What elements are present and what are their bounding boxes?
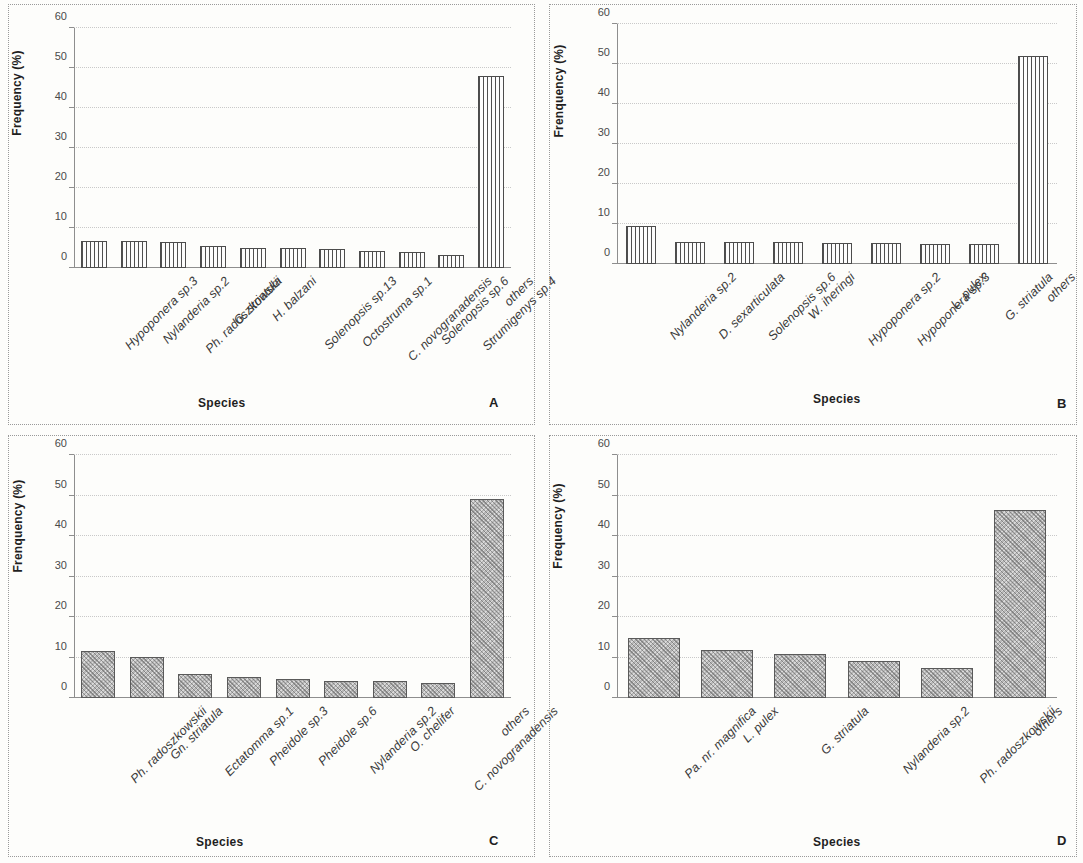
- bar-slot: [74, 455, 123, 698]
- chart-panel-a: Frequency (%) 0102030405060Hypoponera sp…: [0, 0, 541, 431]
- bar-slot: [617, 455, 690, 698]
- bar-slot: [273, 28, 313, 268]
- y-tick-label: 40: [598, 86, 610, 98]
- bar: [822, 243, 852, 264]
- bar-slot: [153, 28, 193, 268]
- y-tick-label: 10: [55, 640, 67, 652]
- y-tick-label: 20: [598, 166, 610, 178]
- bar: [920, 244, 950, 264]
- y-tick-label: 60: [55, 10, 67, 22]
- y-tick-label: 20: [55, 170, 67, 182]
- panel-a-y-axis-title: Frequency (%): [10, 50, 24, 135]
- bar-slot: [193, 28, 233, 268]
- y-tick-label: 50: [55, 478, 67, 490]
- bar: [848, 661, 900, 698]
- bar-slot: [114, 28, 154, 268]
- bar: [319, 249, 345, 268]
- bar: [81, 651, 115, 698]
- bar: [994, 510, 1046, 698]
- bar: [373, 681, 407, 698]
- bar: [421, 683, 455, 698]
- bar: [438, 255, 464, 268]
- panel-b-y-axis-title: Frenquency (%): [552, 45, 566, 138]
- bar-slot: [74, 28, 114, 268]
- y-tick-label: 40: [55, 90, 67, 102]
- bar-slot: [352, 28, 392, 268]
- bar-slot: [414, 455, 463, 698]
- y-tick-label: 30: [55, 130, 67, 142]
- bar-slot: [233, 28, 273, 268]
- bar-slot: [392, 28, 432, 268]
- panel-d-x-axis-title: Species: [813, 835, 860, 849]
- y-tick-label: 40: [55, 518, 67, 530]
- bar-slot: [861, 24, 910, 264]
- bar-slot: [666, 24, 715, 264]
- y-tick-label: 50: [598, 478, 610, 490]
- bar-slot: [764, 24, 813, 264]
- panel-d-plot-area: 0102030405060Pa. nr. magnificaL. pulexG.…: [617, 455, 1057, 698]
- bar: [160, 242, 186, 268]
- bar: [969, 244, 999, 264]
- y-tick-label: 60: [598, 437, 610, 449]
- y-tick-label: 0: [604, 246, 610, 258]
- bar: [675, 242, 705, 264]
- bar: [871, 243, 901, 264]
- bar-slot: [715, 24, 764, 264]
- bar: [240, 248, 266, 268]
- y-tick-label: 10: [55, 210, 67, 222]
- bar-slot: [813, 24, 862, 264]
- bar: [628, 638, 680, 698]
- bar: [773, 242, 803, 264]
- bar: [921, 668, 973, 698]
- bar-slot: [1008, 24, 1057, 264]
- bar-slot: [312, 28, 352, 268]
- bar: [478, 76, 504, 268]
- bar-slot: [910, 455, 983, 698]
- bar: [359, 251, 385, 268]
- bar-series: [74, 455, 511, 698]
- panel-c-y-axis-title: Frenquency (%): [11, 480, 25, 573]
- bar: [200, 246, 226, 268]
- bar: [324, 681, 358, 698]
- bar: [626, 226, 656, 264]
- panel-b-plot-area: 0102030405060Nylanderia sp.2D. sexarticu…: [617, 24, 1057, 264]
- bar: [774, 654, 826, 698]
- bar: [724, 242, 754, 264]
- figure-sheet: Frequency (%) 0102030405060Hypoponera sp…: [0, 0, 1083, 863]
- panel-a-plot-area: 0102030405060Hypoponera sp.3Nylanderia s…: [74, 28, 511, 268]
- bar: [276, 679, 310, 698]
- bar: [280, 248, 306, 268]
- y-tick-label: 30: [55, 559, 67, 571]
- chart-panel-b: Frenquency (%) 0102030405060Nylanderia s…: [541, 0, 1083, 431]
- bar-slot: [317, 455, 366, 698]
- bar-slot: [268, 455, 317, 698]
- panel-a-x-axis-title: Species: [198, 396, 245, 410]
- panel-a-letter: A: [489, 395, 498, 410]
- bar: [470, 499, 504, 698]
- bar: [121, 241, 147, 268]
- y-tick-label: 0: [61, 680, 67, 692]
- panel-c-plot-area: 0102030405060Ph. radoszkowskiiGn. striat…: [74, 455, 511, 698]
- bar: [1018, 56, 1048, 264]
- panel-c-x-axis-title: Species: [196, 835, 243, 849]
- bar-slot: [959, 24, 1008, 264]
- bar-slot: [123, 455, 172, 698]
- bar-slot: [837, 455, 910, 698]
- bar-slot: [365, 455, 414, 698]
- y-tick-label: 0: [604, 680, 610, 692]
- panel-b-x-axis-title: Species: [813, 392, 860, 406]
- bar-slot: [471, 28, 511, 268]
- y-tick-label: 60: [598, 6, 610, 18]
- bar: [81, 241, 107, 268]
- y-tick-label: 10: [598, 640, 610, 652]
- y-tick-label: 20: [598, 599, 610, 611]
- y-tick-label: 0: [61, 250, 67, 262]
- y-tick-label: 50: [598, 46, 610, 58]
- bar: [701, 650, 753, 698]
- bar: [227, 677, 261, 698]
- bar-slot: [984, 455, 1057, 698]
- bar-slot: [617, 24, 666, 264]
- y-tick-label: 50: [55, 50, 67, 62]
- panel-d-letter: D: [1057, 833, 1066, 848]
- bar-slot: [690, 455, 763, 698]
